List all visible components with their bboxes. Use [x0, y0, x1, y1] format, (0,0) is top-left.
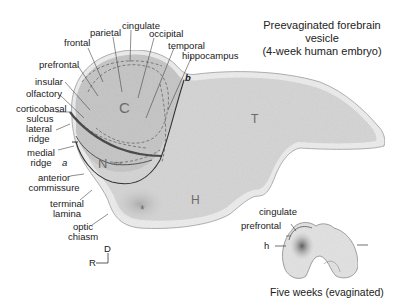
label-prefrontal: prefrontal	[39, 60, 79, 70]
label-terminal-lamina: terminallamina	[48, 199, 86, 219]
orientation-rostral: R	[89, 258, 96, 268]
inset-caption: Five weeks (evaginated)	[270, 287, 384, 297]
label-lateral-ridge: lateralridge	[24, 124, 54, 144]
region-T: T	[251, 112, 258, 126]
forebrain-diagram: Preevaginated forebrain vesicle (4-week …	[0, 0, 398, 308]
label-corticobasal-sulcus: corticobasalsulcus	[16, 104, 64, 124]
label-frontal: frontal	[64, 38, 90, 48]
label-parietal: parietal	[90, 28, 121, 38]
inset-label-cingulate: cingulate	[259, 207, 297, 217]
marker-a: a	[62, 158, 67, 168]
label-optic-chiasm: opticchiasm	[68, 222, 98, 242]
label-olfactory: olfactory	[26, 89, 62, 99]
region-C: C	[119, 99, 130, 116]
marker-b: b	[185, 73, 191, 83]
label-anterior-commissure: anteriorcommissure	[28, 173, 80, 193]
title-line-2: (4-week human embryo)	[262, 45, 382, 58]
region-star: *	[140, 203, 145, 217]
inset-label-h: h	[264, 241, 269, 251]
label-medial-ridge: medialridge	[26, 148, 56, 168]
orientation-dorsal: D	[104, 244, 111, 254]
inset-label-prefrontal: prefrontal	[241, 221, 281, 231]
region-N: N	[98, 156, 107, 171]
label-insular: insular	[35, 77, 63, 87]
title-line-1: Preevaginated forebrain vesicle	[262, 19, 382, 45]
label-occipital: occipital	[149, 29, 183, 39]
orientation-axes	[96, 253, 108, 263]
region-H: H	[191, 193, 200, 207]
figure-title: Preevaginated forebrain vesicle (4-week …	[262, 19, 382, 58]
inset-five-weeks	[275, 223, 368, 279]
label-hippocampus: hippocampus	[182, 51, 239, 61]
region-sps: sps	[113, 160, 122, 166]
